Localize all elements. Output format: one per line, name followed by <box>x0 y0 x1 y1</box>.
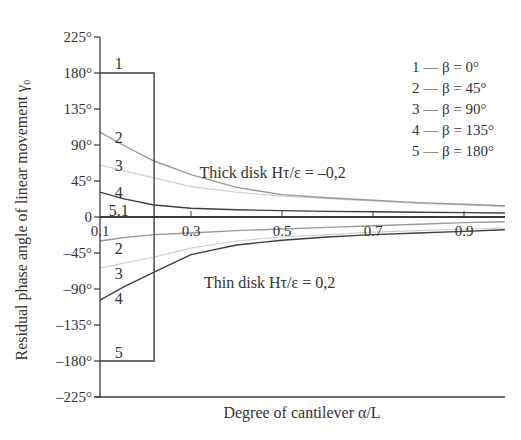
y-tick-label: –180° <box>55 353 92 369</box>
y-tick-label: –45° <box>63 245 93 261</box>
curve-label: 5.1 <box>109 202 129 219</box>
y-tick-label: 45° <box>71 173 92 189</box>
curve-label: 2 <box>115 240 123 257</box>
y-ticks: 225°180°135°90°45°0–45°–90°–135°–180°–22… <box>55 29 100 405</box>
series-line-3 <box>100 192 505 213</box>
legend-entry: 4 — β = 135° <box>412 122 494 138</box>
legend: 1 — β = 0°2 — β = 45°3 — β = 90°4 — β = … <box>412 59 494 159</box>
y-tick-label: –225° <box>55 389 92 405</box>
thin-disk-annotation: Thin disk Hτ/ε = 0,2 <box>204 274 335 291</box>
curve-label: 5 <box>115 344 123 361</box>
curve-label: 4 <box>115 290 123 307</box>
curve-label: 3 <box>115 157 123 174</box>
y-axis-title: Residual phase angle of linear movement … <box>13 79 31 360</box>
y-tick-label: –135° <box>55 317 92 333</box>
x-tick-label: 0.3 <box>182 223 201 239</box>
phase-angle-chart: 225°180°135°90°45°0–45°–90°–135°–180°–22… <box>0 0 521 440</box>
curve-label: 2 <box>115 129 123 146</box>
legend-entry: 5 — β = 180° <box>412 143 494 159</box>
y-tick-label: 90° <box>71 137 92 153</box>
y-tick-label: 225° <box>64 29 93 45</box>
x-tick-label: 0.5 <box>273 223 292 239</box>
legend-entry: 2 — β = 45° <box>412 80 487 96</box>
x-tick-label: 0.1 <box>91 223 110 239</box>
thick-disk-annotation: Thick disk Hτ/ε = –0,2 <box>200 164 346 181</box>
y-tick-label: 135° <box>64 101 93 117</box>
legend-entry: 3 — β = 90° <box>412 101 487 117</box>
y-tick-label: 180° <box>64 65 93 81</box>
x-axis-title: Degree of cantilever α/L <box>223 404 380 422</box>
legend-entry: 1 — β = 0° <box>412 59 479 75</box>
curve-labels: 12345.12345 <box>109 55 129 361</box>
y-tick-label: –90° <box>63 281 93 297</box>
x-tick-label: 0.7 <box>364 223 383 239</box>
x-tick-label: 0.9 <box>455 223 474 239</box>
curve-label: 4 <box>115 184 123 201</box>
curve-label: 1 <box>115 55 123 72</box>
curve-label: 3 <box>115 265 123 282</box>
